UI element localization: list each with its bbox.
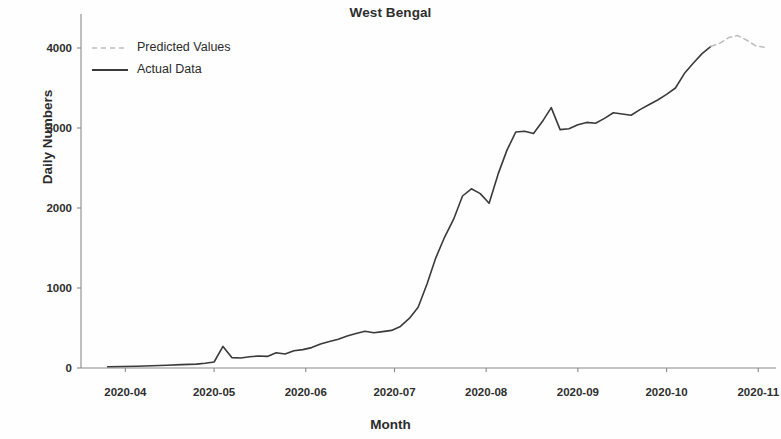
series-line-actual-data [108,46,711,366]
tick-marks [77,48,758,372]
series-line-predicted-values [711,36,764,48]
legend-label: Predicted Values [137,40,231,54]
chart-legend [92,48,128,70]
data-series-layer [108,36,765,367]
legend-label: Actual Data [137,62,202,76]
chart-figure: West Bengal Daily Numbers Month 01000200… [0,0,781,439]
plot-area [0,0,781,439]
